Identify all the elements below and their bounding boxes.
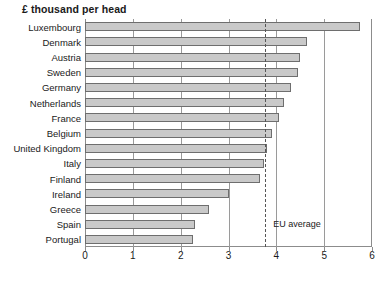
bar-row xyxy=(85,53,372,62)
category-label: Austria xyxy=(51,52,81,63)
bar-row xyxy=(85,22,372,31)
category-axis-labels: LuxembourgDenmarkAustriaSwedenGermanyNet… xyxy=(0,19,81,247)
tick-label: 4 xyxy=(266,250,286,261)
bar-row xyxy=(85,113,372,122)
bar xyxy=(85,174,260,183)
category-label: Denmark xyxy=(42,37,81,48)
tick-label: 1 xyxy=(123,250,143,261)
bar xyxy=(85,189,229,198)
bar xyxy=(85,205,209,214)
category-label: France xyxy=(51,113,81,124)
category-label: Sweden xyxy=(47,67,81,78)
tick-label: 2 xyxy=(171,250,191,261)
category-label: Netherlands xyxy=(30,98,81,109)
bar-row xyxy=(85,189,372,198)
bar-row xyxy=(85,37,372,46)
bar xyxy=(85,144,267,153)
bar-row xyxy=(85,205,372,214)
bar xyxy=(85,98,284,107)
bar xyxy=(85,22,360,31)
bar-row xyxy=(85,98,372,107)
tick-label: 3 xyxy=(219,250,239,261)
category-label: Spain xyxy=(57,219,81,230)
bar xyxy=(85,113,279,122)
bar-row xyxy=(85,83,372,92)
bar xyxy=(85,129,272,138)
bar-row xyxy=(85,68,372,77)
bar xyxy=(85,159,264,168)
bar-chart: £ thousand per head LuxembourgDenmarkAus… xyxy=(0,0,389,282)
bar-row xyxy=(85,235,372,244)
bar xyxy=(85,83,291,92)
chart-title: £ thousand per head xyxy=(22,3,127,15)
bar xyxy=(85,235,193,244)
category-label: Luxembourg xyxy=(28,22,81,33)
eu-average-line xyxy=(265,19,266,247)
category-label: United Kingdom xyxy=(13,143,81,154)
bar-row xyxy=(85,220,372,229)
category-label: Finland xyxy=(50,174,81,185)
tick-label: 6 xyxy=(362,250,382,261)
bar-row xyxy=(85,129,372,138)
tick-label: 0 xyxy=(75,250,95,261)
category-label: Greece xyxy=(50,204,81,215)
plot-area xyxy=(85,19,372,247)
category-label: Portugal xyxy=(46,234,81,245)
bar-row xyxy=(85,144,372,153)
category-label: Ireland xyxy=(52,189,81,200)
category-label: Belgium xyxy=(47,128,81,139)
bar xyxy=(85,37,307,46)
category-label: Germany xyxy=(42,82,81,93)
bar-row xyxy=(85,174,372,183)
tick-label: 5 xyxy=(314,250,334,261)
bar xyxy=(85,220,195,229)
bar-row xyxy=(85,159,372,168)
bar xyxy=(85,53,300,62)
category-label: Italy xyxy=(64,158,81,169)
eu-average-label: EU average xyxy=(273,219,321,229)
